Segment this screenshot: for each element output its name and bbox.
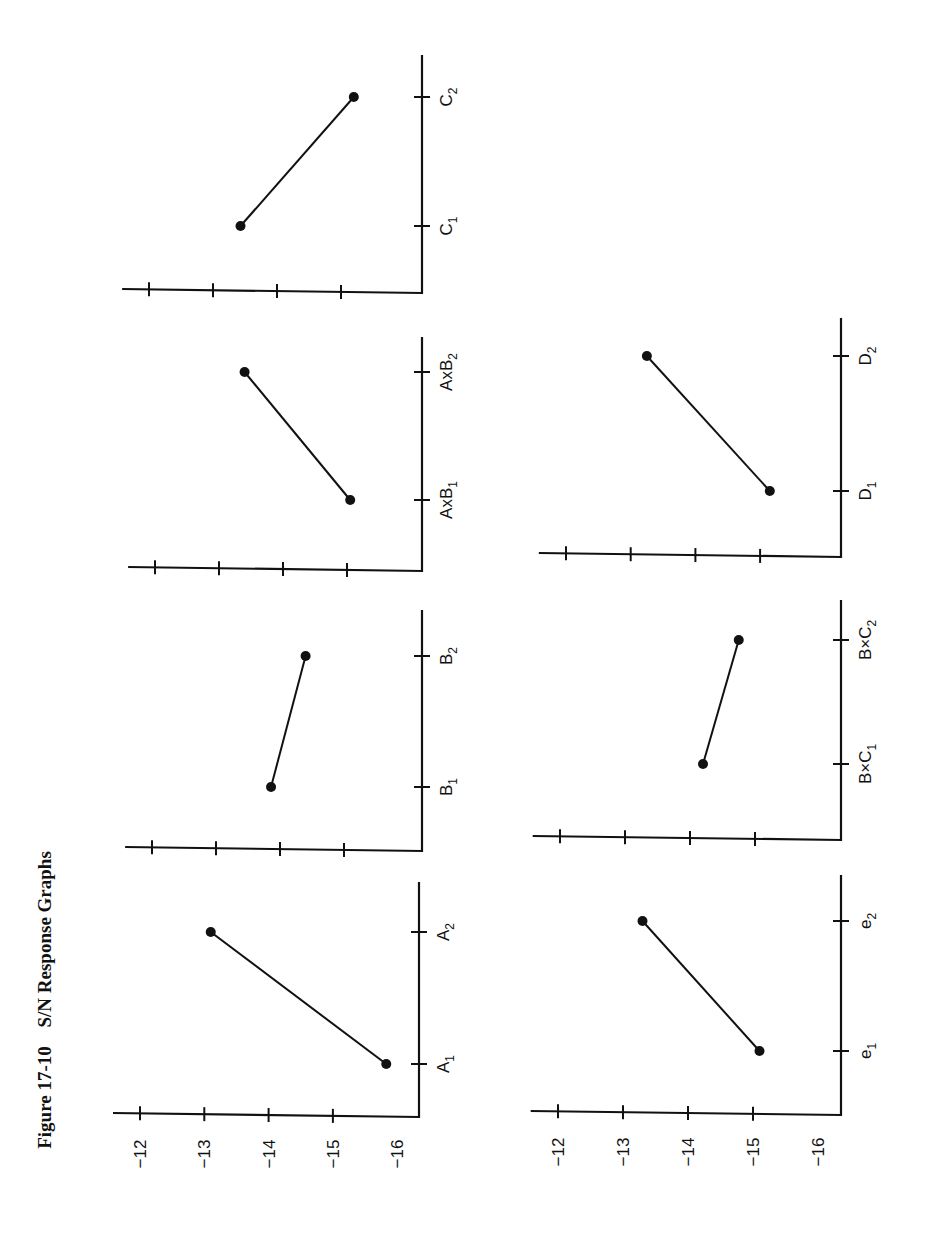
response-line xyxy=(245,372,351,500)
x-tick-label: B×C1 xyxy=(856,744,879,785)
data-point xyxy=(642,351,652,361)
data-point xyxy=(765,486,775,496)
y-tick-label: −15 xyxy=(744,1138,763,1167)
panel-e: −12−13−14−15−16e1e2 xyxy=(531,875,879,1166)
y-tick-label: −14 xyxy=(679,1138,698,1167)
y-tick-label: −15 xyxy=(324,1140,343,1169)
y-tick-label: −12 xyxy=(131,1140,150,1169)
x-tick-label: D2 xyxy=(856,346,879,365)
sn-response-graphs: −12−13−14−15−16A1A2B1B2AxB1AxB2C1C2−12−1… xyxy=(0,0,927,1249)
panel-axb: AxB1AxB2 xyxy=(128,337,460,577)
axis-lines xyxy=(125,610,422,851)
axis-lines xyxy=(113,882,419,1117)
axis-lines xyxy=(128,337,422,571)
response-line xyxy=(647,356,770,491)
axis-lines xyxy=(531,875,841,1115)
data-point xyxy=(698,759,708,769)
response-line xyxy=(703,640,739,764)
data-point xyxy=(755,1046,765,1056)
axis-lines xyxy=(533,600,841,840)
x-tick-label: B1 xyxy=(437,778,460,796)
y-tick-label: −13 xyxy=(195,1140,214,1169)
y-tick-label: −16 xyxy=(809,1138,828,1167)
response-line xyxy=(271,656,306,787)
response-line xyxy=(241,97,354,226)
axis-lines xyxy=(122,55,422,293)
data-point xyxy=(236,221,246,231)
data-point xyxy=(345,495,355,505)
data-point xyxy=(638,916,648,926)
axis-lines xyxy=(539,318,841,557)
panel-bxc: B×C1B×C2 xyxy=(533,600,879,846)
x-tick-label: B×C2 xyxy=(856,620,879,661)
x-tick-label: C2 xyxy=(437,87,460,106)
response-line xyxy=(211,932,387,1064)
panel-a: −12−13−14−15−16A1A2 xyxy=(113,882,457,1168)
x-tick-label: A1 xyxy=(434,1055,457,1073)
data-point xyxy=(734,635,744,645)
x-tick-label: C1 xyxy=(437,216,460,235)
panel-d: D1D2 xyxy=(539,318,879,563)
x-tick-label: A2 xyxy=(434,923,457,941)
y-tick-label: −13 xyxy=(614,1138,633,1167)
data-point xyxy=(381,1059,391,1069)
x-tick-label: D1 xyxy=(856,481,879,500)
x-tick-label: AxB2 xyxy=(437,353,460,391)
response-line xyxy=(643,921,760,1051)
x-tick-label: B2 xyxy=(437,647,460,665)
y-tick-label: −12 xyxy=(549,1138,568,1167)
panel-b: B1B2 xyxy=(125,610,460,857)
x-tick-label: e1 xyxy=(856,1043,879,1059)
data-point xyxy=(349,92,359,102)
x-tick-label: e2 xyxy=(856,913,879,929)
data-point xyxy=(301,651,311,661)
data-point xyxy=(266,782,276,792)
data-point xyxy=(240,367,250,377)
x-tick-label: AxB1 xyxy=(437,481,460,519)
y-tick-label: −14 xyxy=(260,1140,279,1169)
data-point xyxy=(206,927,216,937)
panel-c: C1C2 xyxy=(122,55,460,299)
y-tick-label: −16 xyxy=(388,1140,407,1169)
